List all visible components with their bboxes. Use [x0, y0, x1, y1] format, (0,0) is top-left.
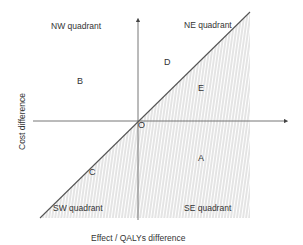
point-e-label: E	[198, 83, 204, 93]
point-a-label: A	[198, 153, 204, 163]
point-c-label: C	[89, 167, 96, 177]
nw-quadrant-label: NW quadrant	[51, 21, 101, 31]
origin-label: O	[138, 120, 145, 130]
ne-quadrant-label: NE quadrant	[184, 20, 232, 30]
ce-plane-graphic	[0, 0, 303, 245]
point-b-label: B	[77, 76, 83, 86]
point-d-label: D	[164, 57, 171, 67]
se-quadrant-label: SE quadrant	[184, 203, 231, 213]
y-axis-label: Cost difference	[17, 93, 27, 150]
x-axis-label: Effect / QALYs difference	[91, 233, 186, 243]
sw-quadrant-label: SW quadrant	[53, 203, 103, 213]
